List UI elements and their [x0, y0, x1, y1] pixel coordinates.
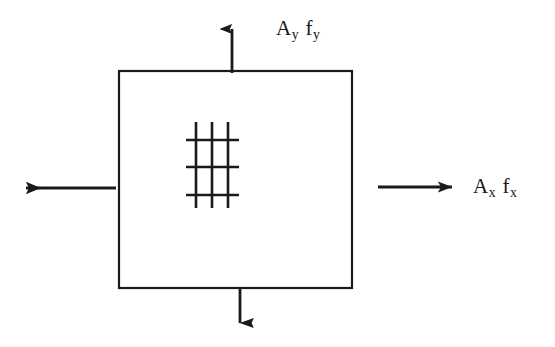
force-arrows-group: [26, 29, 452, 323]
label-fx-base: f: [503, 174, 511, 198]
label-fx-subscript: x: [510, 185, 517, 200]
diagram-canvas: [0, 0, 555, 347]
label-ax-base: A: [473, 174, 489, 198]
element-square-group: [119, 71, 352, 288]
label-ay-base: A: [276, 16, 292, 40]
label-ax-fx: Axfx: [473, 176, 517, 200]
material-element-square: [119, 71, 352, 288]
label-ay-fy: Ayfy: [276, 18, 320, 42]
label-ay-subscript: y: [292, 27, 299, 42]
figure-root: Ayfy Axfx: [0, 0, 555, 347]
label-fy-subscript: y: [313, 27, 320, 42]
fiber-mesh-hatch: [186, 122, 239, 208]
label-ax-subscript: x: [489, 185, 496, 200]
label-fy-base: f: [306, 16, 314, 40]
